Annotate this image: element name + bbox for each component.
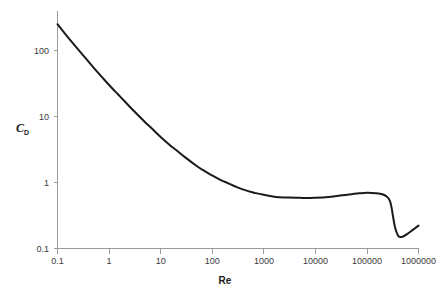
y-axis-ticks — [54, 51, 58, 249]
x-tick-label-1000: 1000 — [254, 256, 274, 266]
x-tick-label-1000000: 1000000 — [401, 256, 436, 266]
x-tick-label-100000: 100000 — [352, 256, 382, 266]
x-tick-label-0.1: 0.1 — [51, 256, 64, 266]
y-tick-label-1: 1 — [44, 178, 49, 188]
y-tick-label-10: 10 — [39, 112, 49, 122]
y-tick-label-0.1: 0.1 — [36, 244, 49, 254]
chart-figure: 100 10 1 0.1 0.1 1 10 100 1000 10000 100… — [0, 0, 437, 293]
drag-coefficient-curve — [58, 24, 419, 237]
svg-text:CD: CD — [16, 121, 29, 136]
chart-canvas: 100 10 1 0.1 0.1 1 10 100 1000 10000 100… — [0, 0, 437, 293]
x-tick-label-100: 100 — [205, 256, 220, 266]
y-axis-title: CD — [16, 121, 29, 136]
x-axis-title: Re — [219, 275, 232, 286]
x-tick-label-10: 10 — [156, 256, 166, 266]
x-axis-ticks — [58, 249, 419, 254]
y-tick-label-100: 100 — [34, 46, 49, 56]
x-tick-label-1: 1 — [107, 256, 112, 266]
y-axis-title-subscript: D — [24, 129, 29, 136]
x-tick-label-10000: 10000 — [303, 256, 328, 266]
